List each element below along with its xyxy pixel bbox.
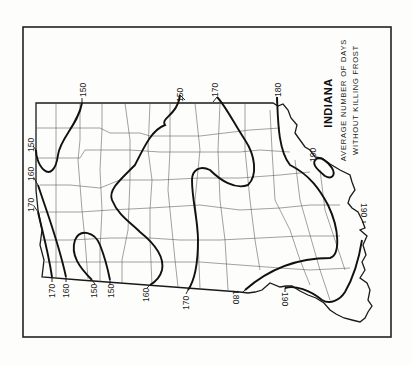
map-subtitle-line1: AVERAGE NUMBER OF DAYS [339, 39, 348, 161]
map-subtitle-line2: WITHOUT KILLING FROST [351, 45, 360, 155]
isolines [36, 95, 362, 302]
label-left-160: 160 [26, 167, 36, 181]
isoline-150-north [36, 103, 82, 172]
label-leaders [33, 95, 366, 294]
map-title-block: INDIANA AVERAGE NUMBER OF DAYS WITHOUT K… [322, 39, 360, 161]
label-bottom-160-b: 160 [141, 288, 151, 302]
label-bottom-180: 180 [231, 290, 241, 304]
indiana-frost-map: 150 150 170 180 150 160 170 170 160 150 … [0, 0, 412, 365]
map-title: INDIANA [322, 78, 334, 127]
map-frame [23, 27, 391, 337]
label-left-150: 150 [26, 138, 36, 152]
label-top-150-a: 150 [78, 83, 88, 97]
label-right-190: 190 [359, 203, 369, 217]
label-bottom-170-a: 170 [47, 284, 57, 298]
isoline-150-loop [74, 233, 110, 280]
label-top-170: 170 [210, 83, 220, 97]
isoline-170-central [188, 97, 254, 290]
label-bottom-150-a: 150 [89, 284, 99, 298]
label-top-150-b: 150 [175, 88, 185, 102]
label-bottom-190: 190 [280, 292, 290, 306]
label-bottom-160-a: 160 [61, 284, 71, 298]
isoline-160-central [111, 95, 180, 285]
label-bottom-150-b: 150 [106, 284, 116, 298]
label-bottom-170-b: 170 [181, 296, 191, 310]
state-outline [36, 103, 372, 322]
label-top-180: 180 [273, 83, 283, 97]
label-inner-190: 190 [308, 148, 318, 162]
label-left-170: 170 [26, 198, 36, 212]
